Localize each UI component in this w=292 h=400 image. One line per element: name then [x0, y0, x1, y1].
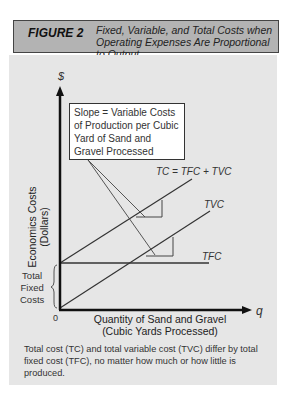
slope-triangle-tvc: [146, 237, 173, 256]
slope-triangle-tc: [136, 200, 162, 217]
fixed-cost-brace-icon: [51, 265, 57, 308]
tc-line: [60, 179, 192, 263]
fixed-label-line1: Total: [20, 270, 44, 282]
pointer-line-2: [88, 160, 155, 255]
x-axis-label-line1: Quantity of Sand and Gravel: [70, 313, 250, 325]
x-axis-label: Quantity of Sand and Gravel (Cubic Yards…: [70, 313, 250, 337]
origin-label: 0: [53, 313, 58, 323]
y-axis-arrow-icon: [56, 86, 64, 96]
tvc-line: [60, 211, 210, 308]
tfc-label: TFC: [202, 251, 222, 262]
total-fixed-costs-label: Total Fixed Costs: [20, 270, 44, 306]
pointer-line-1: [88, 160, 145, 217]
slope-annotation-box: Slope = Variable Costs of Production per…: [69, 103, 185, 160]
y-axis-label: Economics Costs (Dollars): [26, 167, 50, 287]
x-axis-symbol: q: [256, 304, 263, 318]
tc-label: TC = TFC + TVC: [156, 166, 232, 177]
tvc-label: TVC: [204, 199, 225, 210]
y-axis-symbol: $: [57, 70, 65, 82]
x-axis-label-line2: (Cubic Yards Processed): [70, 325, 250, 337]
fixed-label-line2: Fixed: [20, 282, 44, 294]
fixed-label-line3: Costs: [20, 294, 44, 306]
figure-caption: Total cost (TC) and total variable cost …: [24, 343, 274, 379]
